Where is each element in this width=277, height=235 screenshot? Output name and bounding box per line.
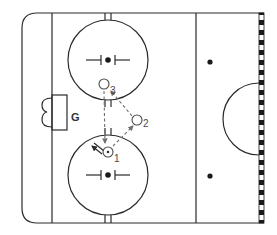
faceoff-dot-bottom bbox=[105, 172, 111, 178]
player-2: 2 bbox=[132, 115, 149, 129]
player-3-icon bbox=[99, 79, 109, 89]
neutral-zone-dot-top bbox=[207, 59, 212, 64]
center-red-line bbox=[259, 13, 264, 223]
neutral-zone-dot-bottom bbox=[207, 173, 212, 178]
player-1-label: 1 bbox=[114, 153, 120, 164]
hockey-rink-diagram: G bbox=[0, 0, 277, 235]
goal-label: G bbox=[71, 111, 80, 123]
faceoff-circle-top bbox=[68, 13, 148, 107]
goal-net bbox=[42, 95, 67, 130]
player-2-label: 2 bbox=[143, 118, 149, 129]
player-1: 1 bbox=[103, 147, 120, 164]
player-2-icon bbox=[132, 115, 142, 125]
player-3-label: 3 bbox=[110, 85, 116, 96]
player-3: 3 bbox=[99, 79, 116, 96]
skate-path-player-1 bbox=[92, 143, 104, 154]
puck-icon bbox=[107, 151, 110, 154]
faceoff-dot-top bbox=[105, 57, 111, 63]
faceoff-circle-bottom bbox=[68, 128, 148, 223]
center-ice-circle bbox=[223, 83, 259, 155]
